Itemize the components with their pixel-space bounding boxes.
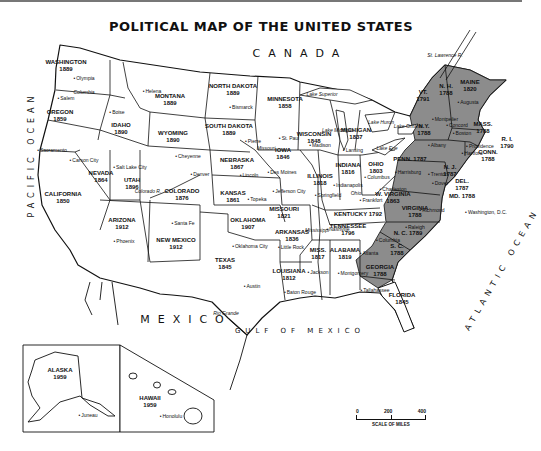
capital-label: Juneau bbox=[78, 412, 97, 418]
capital-label: Trenton bbox=[428, 171, 448, 177]
capital-label: Lansing bbox=[343, 147, 363, 153]
water-label: Ohio bbox=[351, 190, 362, 196]
water-label: St. Lawrence R. bbox=[427, 52, 463, 58]
state-label: WASHINGTON1889 bbox=[45, 59, 86, 73]
hawaii-island-maui bbox=[168, 390, 176, 395]
capital-label: Cheyenne bbox=[175, 153, 201, 159]
capital-label: Jefferson City bbox=[272, 188, 305, 194]
capital-label: Albany bbox=[428, 142, 446, 148]
baja-coast bbox=[85, 282, 118, 325]
state-label: SOUTH DAKOTA1889 bbox=[205, 123, 253, 137]
scale-tick-400: 400 bbox=[418, 408, 426, 414]
state-label: MISSOURI1821 bbox=[269, 206, 299, 220]
capital-label: Columbia bbox=[376, 237, 400, 243]
state-label: IOWA1846 bbox=[275, 147, 291, 161]
water-label: Lake Huron bbox=[368, 119, 394, 125]
gulf-of-mexico-label: GULF OF MEXICO bbox=[235, 327, 365, 335]
hawaii-island-kauai bbox=[129, 373, 137, 379]
state-label: KANSAS1861 bbox=[220, 190, 245, 204]
capital-label: Boise bbox=[109, 109, 124, 115]
capital-label: Topeka bbox=[248, 196, 267, 202]
state-label: ARIZONA1912 bbox=[108, 217, 135, 231]
water-label: Rio Grande bbox=[213, 310, 239, 316]
capital-label: Madison bbox=[309, 142, 331, 148]
state-label: VT.1791 bbox=[416, 89, 429, 103]
state-label: PENN. 1787 bbox=[393, 156, 426, 163]
state-label: OHIO1803 bbox=[368, 161, 383, 175]
capital-label: Hartford bbox=[462, 150, 483, 156]
capital-label: Springfield bbox=[315, 192, 341, 198]
capital-label: Nashville bbox=[326, 226, 349, 232]
capital-label: Providence bbox=[466, 143, 494, 149]
capital-label: Dover bbox=[432, 180, 448, 186]
state-label: HAWAII1959 bbox=[139, 395, 160, 409]
state-label: N. C. 1789 bbox=[394, 230, 423, 237]
capital-label: Lincoln bbox=[240, 172, 259, 178]
canada-label: CANADA bbox=[253, 47, 348, 60]
state-label: TEXAS1845 bbox=[215, 257, 235, 271]
capital-label: Frankfort bbox=[360, 197, 383, 203]
state-label: MD. 1788 bbox=[449, 193, 475, 200]
capital-label: Montgomery bbox=[338, 270, 369, 276]
capital-label: Olympia bbox=[73, 75, 94, 81]
capital-label: Concord bbox=[446, 122, 468, 128]
water-label: Missouri bbox=[257, 145, 276, 151]
state-label: NORTH DAKOTA1889 bbox=[209, 83, 257, 97]
scale-ticks: 0 200 400 bbox=[356, 408, 426, 414]
state-label: ALASKA1959 bbox=[48, 367, 73, 381]
scale-label: SCALE OF MILES bbox=[356, 422, 426, 427]
capital-label: Augusta bbox=[457, 99, 478, 105]
scale-tick-200: 200 bbox=[384, 408, 392, 414]
state-label: S. C.1788 bbox=[390, 243, 403, 257]
state-label: NEW MEXICO1912 bbox=[156, 237, 195, 251]
state-label: IDAHO1890 bbox=[111, 122, 130, 136]
capital-label: St. Paul bbox=[279, 135, 299, 141]
state-label: INDIANA1816 bbox=[336, 162, 361, 176]
state-label: ALABAMA1819 bbox=[330, 247, 360, 261]
state-label: MISS.1817 bbox=[310, 247, 326, 261]
water-label: Columbia bbox=[73, 89, 94, 95]
scale-of-miles: 0 200 400 SCALE OF MILES bbox=[356, 408, 426, 427]
state-label: R. I.1790 bbox=[500, 136, 513, 150]
water-label: Lake Ontario bbox=[394, 123, 423, 129]
state-label: COLORADO1876 bbox=[165, 188, 200, 202]
hawaii-island-oahu bbox=[154, 382, 161, 388]
capital-label: Tallahassee bbox=[360, 287, 389, 293]
hawaii-island-big-island bbox=[184, 408, 202, 424]
state-label: MONTANA1889 bbox=[155, 93, 185, 107]
capital-label: Salem bbox=[58, 95, 75, 101]
water-label: Colorado R. bbox=[135, 188, 162, 194]
state-label: ILLINOIS1818 bbox=[307, 173, 332, 187]
state-label: MINNESOTA1858 bbox=[267, 96, 303, 110]
capital-label: Baton Rouge bbox=[284, 289, 316, 295]
state-label: FLORIDA1845 bbox=[389, 292, 416, 306]
capital-label: Little Rock bbox=[278, 244, 304, 250]
state-label: DEL.1787 bbox=[455, 178, 469, 192]
scale-bar bbox=[356, 415, 426, 420]
state-label: CALIFORNIA1850 bbox=[45, 191, 82, 205]
capital-label: Carson City bbox=[70, 157, 99, 163]
capital-label: Raleigh bbox=[405, 224, 425, 230]
state-label: N. H.1788 bbox=[439, 83, 453, 97]
state-label: GEORGIA1788 bbox=[366, 264, 394, 278]
capital-label: Phoenix bbox=[114, 238, 135, 244]
state-label: NEBRASKA1867 bbox=[220, 157, 254, 171]
state-label: OREGON1859 bbox=[47, 109, 74, 123]
state-label: MASS.1788 bbox=[473, 121, 492, 135]
capital-label: Helena bbox=[143, 88, 162, 94]
capital-label: Salt Lake City bbox=[113, 164, 147, 170]
water-label: Lake Michigan bbox=[322, 127, 354, 133]
capital-label: Boston bbox=[453, 130, 471, 136]
water-label: Lake Superior bbox=[306, 91, 337, 97]
capital-label: Atlanta bbox=[360, 250, 378, 256]
capital-label: Richmond bbox=[419, 207, 444, 213]
capital-label: Pierre bbox=[245, 138, 261, 144]
state-label: ARKANSAS1836 bbox=[275, 229, 309, 243]
water-label: Mississippi bbox=[305, 227, 329, 233]
state-label: LOUISIANA1812 bbox=[273, 268, 306, 282]
capital-label: Honolulu bbox=[160, 413, 183, 419]
capital-label: Jackson bbox=[307, 269, 328, 275]
capital-label: Sacramento bbox=[37, 147, 67, 153]
state-label: NEVADA1864 bbox=[89, 170, 114, 184]
state-label: MAINE1820 bbox=[460, 79, 479, 93]
